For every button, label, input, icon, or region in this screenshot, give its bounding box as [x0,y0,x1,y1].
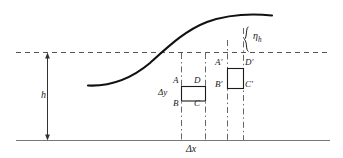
wave-profile-figure: h ηh Δy Δx A B C D A′ B′ C′ D′ [0,0,343,158]
corner-label-a: A [173,76,179,85]
corner-label-c: C [194,99,200,108]
corner-label-b-prime: B′ [215,80,222,89]
eta-subscript: h [258,36,262,44]
depth-arrow-head-up [45,53,50,59]
corner-label-a-prime: A′ [215,58,222,67]
eta-height-brace [245,27,249,52]
delta-x-label: Δx [186,144,196,154]
depth-arrow-head-down [45,134,50,140]
eta-h-label: ηh [253,31,262,44]
corner-label-d: D [194,76,201,85]
depth-label: h [41,90,46,100]
figure-canvas [0,0,343,158]
free-surface-curve [88,15,272,86]
corner-label-b: B [173,99,179,108]
fluid-element-abcd-prime [228,69,244,89]
corner-label-c-prime: C′ [245,80,253,89]
delta-y-label: Δy [158,88,167,97]
corner-label-d-prime: D′ [245,58,253,67]
